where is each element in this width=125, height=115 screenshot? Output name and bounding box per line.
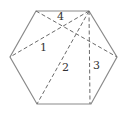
label-2: 2 xyxy=(62,61,69,74)
diagonal-2 xyxy=(37,11,89,104)
label-1: 1 xyxy=(40,41,47,54)
label-3: 3 xyxy=(93,59,100,72)
diagonal-3 xyxy=(89,11,90,104)
hexagon-diagram: 1 2 3 4 xyxy=(0,0,125,115)
label-4: 4 xyxy=(57,10,64,23)
